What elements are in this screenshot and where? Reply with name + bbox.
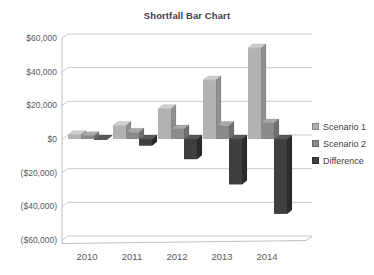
x-axis-tick-label: 2013 bbox=[211, 251, 232, 262]
y-axis-tick-label: ($40,000) bbox=[21, 201, 58, 211]
bar-scenario-1-2013 bbox=[203, 80, 216, 139]
x-axis-tick-label: 2011 bbox=[122, 251, 142, 262]
bar-scenario-1-2014 bbox=[248, 48, 261, 139]
shortfall-bar-chart: $60,000$40,000$20,000$0($20,000)($40,000… bbox=[0, 0, 374, 275]
gridline bbox=[62, 68, 312, 72]
gridline bbox=[62, 236, 312, 240]
y-axis-tick-label: $0 bbox=[48, 134, 58, 144]
bar-scenario-1-2011 bbox=[113, 126, 126, 139]
bar-difference-2014-side bbox=[287, 135, 292, 214]
legend-marker-scenario-2-icon bbox=[312, 140, 319, 147]
bar-difference-2010 bbox=[94, 139, 107, 140]
y-axis-tick-label: $20,000 bbox=[26, 100, 57, 110]
y-axis-tick-label: ($60,000) bbox=[21, 235, 58, 245]
legend-label-difference: Difference bbox=[323, 156, 364, 166]
x-axis-tick-label: 2010 bbox=[76, 251, 97, 262]
gridline bbox=[62, 34, 312, 38]
legend-label-scenario-2: Scenario 2 bbox=[323, 139, 366, 149]
y-axis-tick-label: $60,000 bbox=[26, 33, 57, 43]
chart-title: Shortfall Bar Chart bbox=[0, 10, 374, 21]
bar-scenario-2-2010 bbox=[81, 136, 94, 139]
bar-difference-2011 bbox=[139, 139, 152, 146]
bar-scenario-1-2010 bbox=[68, 135, 81, 139]
legend-item-scenario-1: Scenario 1 bbox=[312, 118, 366, 135]
legend-item-scenario-2: Scenario 2 bbox=[312, 135, 366, 152]
legend-marker-difference-icon bbox=[312, 157, 319, 164]
bar-difference-2013-side bbox=[242, 135, 247, 184]
bar-scenario-2-2012 bbox=[171, 129, 184, 139]
bar-scenario-1-2012 bbox=[158, 109, 171, 139]
x-axis-tick-label: 2014 bbox=[256, 251, 277, 262]
bar-scenario-2-2011 bbox=[126, 132, 139, 139]
bar-difference-2014 bbox=[274, 139, 287, 214]
bar-difference-2012 bbox=[184, 139, 197, 159]
y-axis-tick-label: ($20,000) bbox=[21, 168, 58, 178]
x-axis-tick-label: 2012 bbox=[166, 251, 187, 262]
legend-label-scenario-1: Scenario 1 bbox=[323, 122, 366, 132]
bar-difference-2013 bbox=[229, 139, 242, 184]
legend-marker-scenario-1-icon bbox=[312, 123, 319, 130]
bar-scenario-2-2014 bbox=[261, 123, 274, 139]
y-axis-tick-label: $40,000 bbox=[26, 67, 57, 77]
chart-legend: Scenario 1 Scenario 2 Difference bbox=[312, 118, 366, 169]
bar-scenario-2-2013 bbox=[216, 126, 229, 139]
bar-difference-2012-side bbox=[197, 135, 202, 159]
gridline bbox=[62, 101, 312, 105]
legend-item-difference: Difference bbox=[312, 152, 366, 169]
